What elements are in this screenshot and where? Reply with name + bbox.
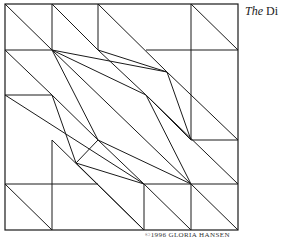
diagram-title: The Di [245, 4, 278, 19]
seam-line [52, 140, 144, 230]
seam-line [52, 50, 191, 184]
seam-line [98, 140, 191, 184]
seam-line [52, 4, 98, 50]
seam-line [76, 140, 98, 163]
copyright-credit: ©1996 GLORIA HANSEN [145, 231, 230, 239]
seam-line [52, 95, 76, 163]
seam-line [52, 95, 98, 140]
quilt-block-diagram [0, 0, 293, 240]
seam-line [98, 4, 167, 72]
seam-line [191, 4, 238, 50]
seam-line [5, 50, 52, 95]
title-prefix: The [245, 4, 263, 18]
seam-line [5, 4, 52, 50]
seam-line [167, 72, 191, 140]
seam-line [5, 184, 52, 230]
seam-line [5, 95, 144, 184]
seam-line [191, 184, 238, 230]
seam-line [52, 50, 98, 140]
seam-line [98, 50, 146, 95]
title-rest: Di [266, 4, 278, 18]
seam-line [144, 184, 191, 230]
seam-line [167, 72, 238, 140]
seam-line [52, 50, 146, 95]
seam-line [146, 95, 191, 184]
